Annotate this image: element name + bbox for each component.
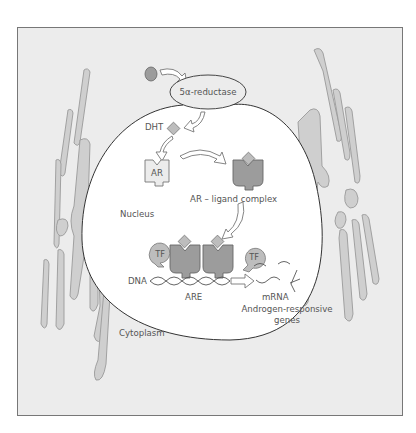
testosterone-molecule bbox=[145, 67, 157, 81]
nucleus-label: Nucleus bbox=[120, 209, 155, 219]
enzyme-label: 5α-reductase bbox=[180, 87, 237, 97]
cytoplasm-label: Cytoplasm bbox=[119, 328, 165, 338]
dna-label: DNA bbox=[128, 276, 147, 286]
genes-label-line1: Androgen-responsive bbox=[241, 304, 332, 314]
mrna-label: mRNA bbox=[262, 292, 289, 302]
androgen-signaling-diagram: 5α-reductase DHT AR AR – ligand complex … bbox=[0, 0, 416, 433]
complex-label: AR – ligand complex bbox=[190, 194, 277, 204]
ar-label: AR bbox=[151, 168, 163, 178]
are-label: ARE bbox=[185, 292, 202, 302]
genes-label-line2: genes bbox=[274, 315, 300, 325]
dht-label: DHT bbox=[145, 122, 164, 132]
tf-left-label: TF bbox=[154, 249, 165, 259]
tf-right-label: TF bbox=[248, 252, 259, 262]
